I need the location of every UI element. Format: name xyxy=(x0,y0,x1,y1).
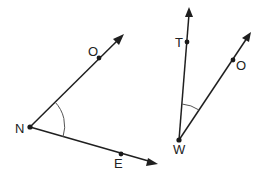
point-O-right xyxy=(231,58,236,63)
angle-arc-W xyxy=(182,104,199,110)
angle-arc-N xyxy=(55,102,65,137)
angles-diagram: N O E T O W xyxy=(0,0,267,181)
label-E: E xyxy=(114,156,123,171)
label-W: W xyxy=(173,142,186,157)
label-T: T xyxy=(175,35,183,50)
point-T xyxy=(185,40,190,45)
label-O-right: O xyxy=(236,58,246,73)
ray-WO xyxy=(179,32,251,140)
label-O-left: O xyxy=(88,44,98,59)
ray-NE xyxy=(30,127,158,166)
label-N: N xyxy=(15,121,24,136)
point-N xyxy=(27,124,32,129)
arrowhead-icon xyxy=(185,7,193,17)
ray-WT xyxy=(179,7,193,140)
arrowhead-icon xyxy=(146,158,158,166)
arrowhead-icon xyxy=(242,32,251,42)
ray-NO xyxy=(30,34,124,127)
